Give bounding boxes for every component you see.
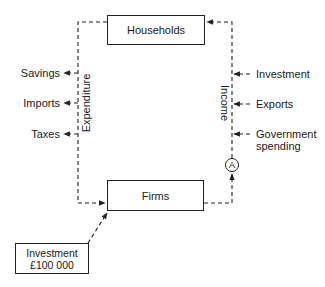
firms-node: Firms	[107, 180, 204, 211]
injection-government: Government spending	[256, 128, 317, 152]
firms-label: Firms	[142, 190, 170, 202]
investment-box-line2: £100 000	[30, 259, 74, 271]
investment-injection-box: Investment £100 000	[15, 243, 89, 274]
income-flow-lower	[204, 174, 232, 203]
marker-a: A	[225, 158, 239, 172]
withdrawal-savings: Savings	[21, 67, 60, 79]
withdrawal-imports: Imports	[23, 97, 60, 109]
investment-injection-arrow	[88, 213, 107, 243]
injection-exports: Exports	[256, 98, 293, 110]
injection-investment: Investment	[256, 68, 310, 80]
households-node: Households	[107, 15, 205, 45]
withdrawal-taxes: Taxes	[31, 128, 60, 140]
households-label: Households	[127, 24, 185, 36]
income-label: Income	[219, 73, 231, 133]
investment-box-line1: Investment	[26, 247, 77, 259]
expenditure-label: Expenditure	[80, 73, 92, 133]
